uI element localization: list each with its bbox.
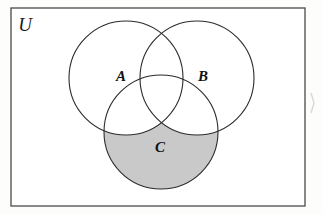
set-label-c: C [155,139,166,155]
set-label-a: A [115,68,126,84]
venn-diagram-figure: U A B C [0,0,323,214]
venn-diagram-canvas: U A B C [0,0,323,214]
set-label-b: B [197,68,208,84]
shaded-region-c-minus-a-union-b [0,0,323,214]
universe-label: U [18,14,33,35]
